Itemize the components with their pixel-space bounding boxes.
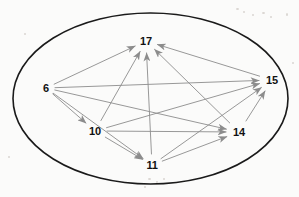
paper-speck (144, 186, 146, 188)
paper-speck (148, 178, 151, 180)
graph-diagram: 61715141011 (0, 0, 299, 197)
graph-edge (107, 131, 226, 132)
graph-edge (53, 94, 86, 123)
paper-speck (270, 16, 272, 18)
paper-speck (8, 156, 10, 158)
graph-edge (161, 88, 261, 159)
node-label-17: 17 (140, 36, 152, 47)
graph-edge (55, 80, 259, 87)
graph-edge (105, 137, 142, 159)
node-label-15: 15 (266, 75, 278, 86)
edge-layer (53, 45, 265, 162)
graph-edge (157, 45, 259, 77)
node-label-10: 10 (89, 126, 101, 137)
graph-edge (54, 46, 135, 84)
graph-edge (55, 90, 227, 129)
paper-speck (243, 11, 245, 13)
node-label-11: 11 (146, 160, 157, 171)
paper-speck (24, 33, 26, 35)
node-label-6: 6 (43, 83, 49, 94)
paper-speck (156, 181, 158, 183)
paper-speck (163, 178, 165, 180)
graph-edge (162, 137, 227, 161)
paper-speck (236, 8, 239, 10)
paper-speck (252, 14, 254, 16)
paper-speck (286, 13, 288, 16)
graph-edge (246, 91, 265, 121)
paper-speck (262, 12, 265, 14)
node-label-14: 14 (233, 127, 245, 138)
graph-edge (155, 49, 230, 123)
paper-speck (292, 62, 294, 64)
graph-edge (147, 53, 152, 154)
